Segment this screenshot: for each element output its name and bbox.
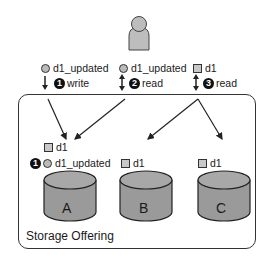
op1-action: 1 write (54, 77, 89, 89)
flow-line-write-to-a (48, 99, 66, 139)
step-badge: 1 (54, 78, 65, 89)
square-marker-icon (44, 143, 53, 152)
write-arrow-icon (42, 76, 48, 90)
step-badge: 1 (30, 158, 41, 169)
flow-line-read3-to-b (148, 99, 198, 139)
op3-data-label: d1 (193, 62, 217, 74)
circle-marker-icon (41, 64, 50, 73)
node-b-label: B (139, 200, 148, 216)
read-arrow-icon-3 (193, 74, 199, 91)
square-marker-icon (121, 159, 130, 168)
node-b-item-d1: d1 (121, 157, 145, 169)
node-c-item-d1: d1 (198, 157, 222, 169)
diagram-graphics (0, 0, 269, 264)
storage-offering-label: Storage Offering (26, 229, 114, 243)
flow-line-read3-to-c (198, 99, 222, 139)
node-c-label: C (216, 200, 226, 216)
op3-action: 3 read (203, 77, 237, 89)
step-badge: 2 (129, 78, 140, 89)
square-marker-icon (193, 64, 202, 73)
circle-marker-icon (43, 159, 52, 168)
flow-line-read2-to-a (75, 99, 125, 139)
node-a-label: A (62, 200, 71, 216)
circle-marker-icon (119, 64, 128, 73)
op2-action: 2 read (129, 77, 163, 89)
node-a-item-d1-updated: 1 d1_updated (30, 157, 110, 169)
op1-data-label: d1_updated (41, 62, 108, 74)
person-icon (129, 17, 149, 51)
op2-data-label: d1_updated (119, 62, 186, 74)
read-arrow-icon-2 (119, 74, 125, 91)
node-a-item-d1: d1 (44, 141, 68, 153)
step-badge: 3 (203, 78, 214, 89)
square-marker-icon (198, 159, 207, 168)
